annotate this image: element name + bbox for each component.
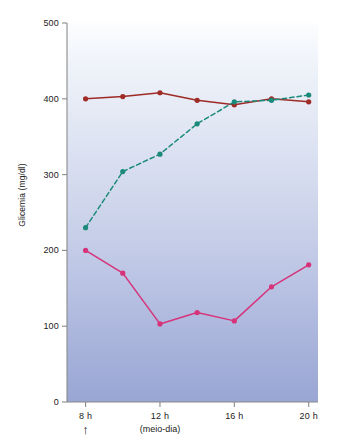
data-point xyxy=(269,284,274,289)
y-tick-label: 500 xyxy=(29,18,59,28)
y-axis-title: Glicemia (mg/dl) xyxy=(17,140,27,250)
x-tick-label: 12 h xyxy=(151,411,169,421)
noon-annotation: (meio-dia) xyxy=(140,424,181,434)
data-point xyxy=(83,96,88,101)
x-tick-label: 8 h xyxy=(79,411,92,421)
data-point xyxy=(157,152,162,157)
y-tick-label: 300 xyxy=(29,170,59,180)
data-point xyxy=(269,98,274,103)
data-point xyxy=(232,99,237,104)
chart-canvas xyxy=(0,0,342,447)
data-point xyxy=(83,225,88,230)
data-point xyxy=(195,121,200,126)
data-point xyxy=(83,248,88,253)
plot-background xyxy=(67,23,318,402)
data-point xyxy=(232,318,237,323)
x-tick-label: 16 h xyxy=(225,411,243,421)
y-tick-label: 100 xyxy=(29,321,59,331)
y-tick-label: 400 xyxy=(29,94,59,104)
data-point xyxy=(120,271,125,276)
x-tick-label: 20 h xyxy=(300,411,318,421)
meal-arrow-icon: ↑ xyxy=(82,423,89,436)
data-point xyxy=(195,98,200,103)
data-point xyxy=(306,99,311,104)
data-point xyxy=(157,321,162,326)
data-point xyxy=(120,94,125,99)
data-point xyxy=(120,169,125,174)
data-point xyxy=(306,262,311,267)
glicemia-line-chart: Glicemia (mg/dl) 0100200300400500 8 h12 … xyxy=(0,0,342,447)
y-tick-label: 0 xyxy=(29,397,59,407)
data-point xyxy=(195,310,200,315)
data-point xyxy=(157,90,162,95)
y-tick-label: 200 xyxy=(29,245,59,255)
data-point xyxy=(306,92,311,97)
